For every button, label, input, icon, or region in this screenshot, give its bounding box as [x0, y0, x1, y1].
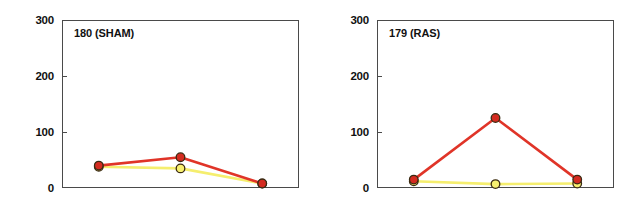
series-line-red — [414, 118, 577, 180]
data-point-marker — [573, 175, 582, 184]
data-point-marker — [94, 161, 103, 170]
chart-panel-ras: 300 200 100 0 179 (RAS) — [315, 0, 629, 206]
data-point-marker — [409, 175, 418, 184]
plot-series-right — [315, 0, 629, 206]
data-point-marker — [491, 114, 500, 123]
data-point-marker — [176, 164, 185, 173]
data-point-marker — [491, 180, 500, 189]
figure-canvas: 300 200 100 0 180 (SHAM) 300 200 100 0 1… — [0, 0, 629, 206]
axis-area: 300 200 100 0 179 (RAS) — [315, 0, 629, 206]
axis-area: 300 200 100 0 180 (SHAM) — [0, 0, 314, 206]
chart-panel-sham: 300 200 100 0 180 (SHAM) — [0, 0, 314, 206]
data-point-marker — [176, 153, 185, 162]
plot-series-left — [0, 0, 314, 206]
data-point-marker — [258, 179, 267, 188]
